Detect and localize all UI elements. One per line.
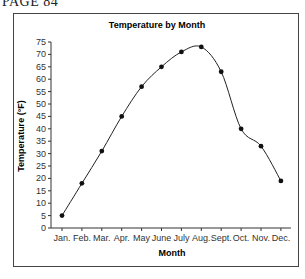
y-tick-label: 65 xyxy=(36,62,46,72)
line-chart: Temperature by Month 0510152025303540455… xyxy=(0,0,305,279)
data-point xyxy=(279,178,284,183)
data-point xyxy=(199,45,204,50)
y-tick-label: 45 xyxy=(36,111,46,121)
x-tick-label: Oct. xyxy=(233,233,250,243)
data-point xyxy=(99,149,104,154)
chart-title: Temperature by Month xyxy=(109,20,205,30)
y-tick-label: 15 xyxy=(36,186,46,196)
y-tick-label: 35 xyxy=(36,136,46,146)
x-tick-label: July xyxy=(173,233,190,243)
x-tick-label: Nov. xyxy=(252,233,270,243)
x-tick-label: Sept. xyxy=(211,233,232,243)
y-tick-label: 5 xyxy=(41,211,46,221)
data-point xyxy=(219,69,224,74)
y-tick-label: 30 xyxy=(36,149,46,159)
y-tick-label: 10 xyxy=(36,198,46,208)
y-tick-label: 50 xyxy=(36,99,46,109)
x-tick-label: Mar. xyxy=(93,233,111,243)
x-tick-label: Jan. xyxy=(53,233,70,243)
data-markers xyxy=(60,45,284,218)
data-point xyxy=(239,126,244,131)
x-tick-label: June xyxy=(152,233,172,243)
data-point xyxy=(60,213,65,218)
y-tick-label: 20 xyxy=(36,173,46,183)
x-tick-label: Feb. xyxy=(73,233,91,243)
data-point xyxy=(139,84,144,89)
y-tick-label: 40 xyxy=(36,124,46,134)
data-point xyxy=(80,181,85,186)
x-tick-label: Aug. xyxy=(192,233,211,243)
x-axis-label: Month xyxy=(159,248,186,258)
x-tick-label: Dec. xyxy=(272,233,291,243)
x-tick-label: Apr. xyxy=(114,233,130,243)
data-point xyxy=(259,144,264,149)
y-tick-label: 75 xyxy=(36,37,46,47)
data-point xyxy=(119,114,124,119)
x-tick-label: May xyxy=(133,233,151,243)
y-tick-label: 70 xyxy=(36,49,46,59)
y-axis: 051015202530354045505560657075 xyxy=(36,37,51,233)
data-point xyxy=(179,50,184,55)
temperature-line xyxy=(62,46,281,216)
y-axis-label: Temperature (°F) xyxy=(16,100,26,171)
x-axis: Jan.Feb.Mar.Apr.MayJuneJulyAug.Sept.Oct.… xyxy=(51,228,291,243)
y-tick-label: 25 xyxy=(36,161,46,171)
y-tick-label: 55 xyxy=(36,87,46,97)
y-tick-label: 0 xyxy=(41,223,46,233)
data-point xyxy=(159,64,164,69)
y-tick-label: 60 xyxy=(36,74,46,84)
